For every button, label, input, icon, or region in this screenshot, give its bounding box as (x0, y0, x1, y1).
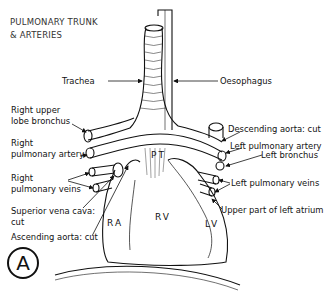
label-descending-aorta: Descending aorta: cut (228, 124, 321, 135)
label-pulmonary-trunk: PT (151, 150, 166, 160)
label-right-pulmonary-artery: Right pulmonary artery (11, 138, 84, 160)
label-left-bronchus: Left bronchus (261, 150, 318, 161)
label-left-ventricle: LV (205, 219, 219, 229)
label-upper-left-atrium: Upper part of left atrium (221, 205, 323, 216)
label-right-pulmonary-veins: Right pulmonary veins (11, 173, 81, 195)
panel-letter-badge: A (7, 247, 39, 279)
label-ascending-aorta: Ascending aorta: cut (11, 232, 98, 243)
label-right-ventricle: RV (155, 212, 171, 222)
label-oesophagus: Oesophagus (220, 76, 272, 87)
label-right-upper-lobe-bronchus: Right upper lobe bronchus (11, 105, 70, 127)
label-trachea: Trachea (62, 76, 95, 87)
label-superior-vena-cava: Superior vena cava: cut (11, 206, 95, 228)
label-left-pulmonary-veins: Left pulmonary veins (231, 178, 319, 189)
label-right-atrium: RA (107, 218, 123, 228)
